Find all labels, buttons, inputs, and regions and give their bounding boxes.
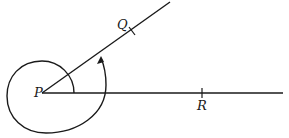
label-p: P bbox=[34, 86, 43, 99]
rotation-spiral-arc bbox=[7, 58, 106, 133]
label-q: Q bbox=[117, 18, 128, 31]
angle-diagram bbox=[0, 0, 289, 138]
label-r: R bbox=[197, 99, 207, 112]
